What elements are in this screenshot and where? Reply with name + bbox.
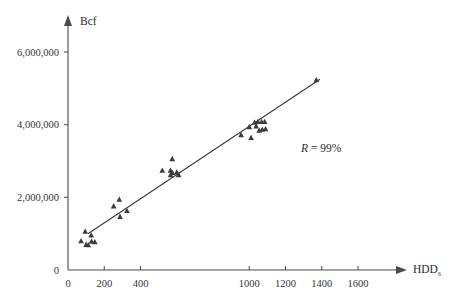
y-axis-tick-labels: 02,000,0004,000,0006,000,000	[17, 47, 59, 276]
x-axis-arrow-icon	[396, 266, 407, 274]
data-point-marker	[116, 197, 122, 202]
scatter-chart-figure: 02,000,0004,000,0006,000,000 02004001000…	[0, 0, 457, 307]
trend-line-segment	[88, 79, 320, 233]
x-tick-label: 1400	[311, 278, 332, 289]
data-point-marker	[82, 228, 88, 233]
y-axis-title: Bcf	[80, 15, 97, 27]
data-point-marker	[111, 203, 117, 208]
correlation-annotation: R = 99%	[300, 142, 342, 154]
data-point-marker	[263, 126, 269, 131]
x-axis-tick-labels: 02004001000120014001600	[65, 278, 368, 289]
x-tick-label: 1600	[348, 278, 369, 289]
data-points-group	[78, 77, 319, 247]
y-tick-label: 0	[54, 265, 59, 276]
x-axis-ticks	[104, 266, 358, 270]
x-tick-label: 200	[96, 278, 112, 289]
x-tick-label: 400	[133, 278, 149, 289]
y-tick-label: 6,000,000	[17, 47, 59, 58]
y-axis-group	[64, 15, 72, 270]
x-axis-group	[68, 266, 407, 274]
y-tick-label: 2,000,000	[17, 192, 59, 203]
data-point-marker	[159, 167, 165, 172]
trend-line	[88, 79, 320, 233]
x-tick-label: 0	[65, 278, 70, 289]
data-point-marker	[117, 214, 123, 219]
data-point-marker	[78, 238, 84, 243]
y-tick-label: 4,000,000	[17, 119, 59, 130]
x-axis-title: HDDs	[413, 263, 441, 278]
x-tick-label: 1000	[239, 278, 260, 289]
y-axis-arrow-icon	[64, 15, 72, 26]
chart-canvas: 02,000,0004,000,0006,000,000 02004001000…	[0, 0, 457, 307]
y-axis-ticks	[64, 52, 68, 197]
x-tick-label: 1200	[275, 278, 296, 289]
data-point-marker	[169, 156, 175, 161]
data-point-marker	[248, 135, 254, 140]
